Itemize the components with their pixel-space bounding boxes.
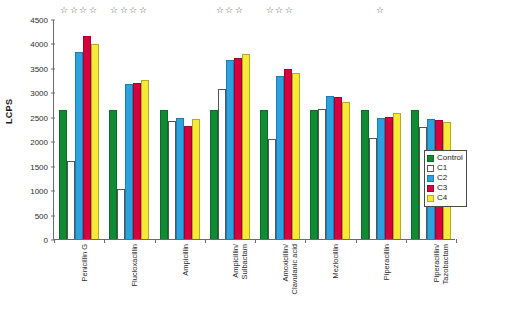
legend-item: C3 <box>427 183 463 193</box>
bar-c1 <box>168 121 176 239</box>
legend-item: C4 <box>427 193 463 203</box>
legend-swatch <box>427 195 434 202</box>
x-tick-label: Amoxicillin/ Clavulanic acid <box>282 244 299 314</box>
bar-c1 <box>218 89 226 239</box>
bar-control <box>361 110 369 239</box>
bar-control <box>160 110 168 239</box>
bar-c4 <box>292 73 300 239</box>
x-tick-label: Penicillin G <box>81 244 90 314</box>
bar-groups: ☆☆☆☆☆☆☆☆☆☆☆☆☆☆☆ <box>54 20 455 239</box>
bar-group <box>356 20 406 239</box>
bar-c3 <box>234 58 242 239</box>
bar-c3 <box>133 83 141 239</box>
legend-swatch <box>427 165 434 172</box>
legend-item: C2 <box>427 173 463 183</box>
x-tick-label: Flucloxacillin <box>131 244 140 314</box>
bar-c3 <box>83 36 91 239</box>
bar-control <box>109 110 117 239</box>
significance-stars: ☆☆☆☆ <box>54 6 104 15</box>
bar-control <box>260 110 268 239</box>
x-tick-label: Piperacillin/ Tazobactam <box>433 244 450 314</box>
legend-item: Control <box>427 153 463 163</box>
x-tick-mark <box>104 239 105 243</box>
legend-label: C4 <box>437 194 447 202</box>
bar-c2 <box>276 76 284 239</box>
bar-control <box>310 110 318 239</box>
bar-c4 <box>342 102 350 239</box>
x-tick-label: Mezlocillin <box>332 244 341 314</box>
significance-stars: ☆ <box>356 6 406 15</box>
legend-label: Control <box>437 154 463 162</box>
bar-c2 <box>377 118 385 239</box>
bar-c4 <box>141 80 149 239</box>
y-axis-label: LCPS <box>4 110 14 124</box>
bar-c2 <box>326 96 334 239</box>
x-tick-mark <box>406 239 407 243</box>
significance-stars: ☆☆☆ <box>205 6 255 15</box>
x-tick-mark <box>456 239 457 243</box>
x-tick-label: Piperacillin <box>383 244 392 314</box>
legend-swatch <box>427 155 434 162</box>
legend-label: C2 <box>437 174 447 182</box>
significance-stars: ☆☆☆ <box>255 6 305 15</box>
bar-c3 <box>284 69 292 239</box>
x-tick-mark <box>255 239 256 243</box>
bar-c4 <box>192 119 200 239</box>
x-tick-mark <box>305 239 306 243</box>
bar-c2 <box>226 60 234 239</box>
bar-c1 <box>369 138 377 239</box>
bar-c4 <box>91 44 99 239</box>
x-tick-label: Ampicillin/ Sulbactam <box>232 244 249 314</box>
bar-group <box>104 20 154 239</box>
legend-label: C3 <box>437 184 447 192</box>
x-tick-mark <box>155 239 156 243</box>
bar-c1 <box>318 109 326 239</box>
legend-swatch <box>427 185 434 192</box>
x-tick-mark <box>205 239 206 243</box>
bar-c3 <box>184 126 192 239</box>
bar-c2 <box>176 118 184 239</box>
chart-legend: ControlC1C2C3C4 <box>424 150 467 207</box>
bar-group <box>305 20 355 239</box>
bar-c2 <box>75 52 83 239</box>
bar-c4 <box>393 113 401 239</box>
bar-control <box>210 110 218 239</box>
bar-c4 <box>242 54 250 239</box>
x-tick-mark <box>356 239 357 243</box>
bar-chart: LCPS 05001000150020002500300035004000450… <box>0 0 513 318</box>
bar-group <box>155 20 205 239</box>
legend-label: C1 <box>437 164 447 172</box>
bar-group <box>205 20 255 239</box>
bar-group <box>255 20 305 239</box>
legend-swatch <box>427 175 434 182</box>
bar-group <box>54 20 104 239</box>
x-axis-labels: Penicillin GFlucloxacillinAmpicillinAmpi… <box>53 244 455 318</box>
x-tick-mark <box>54 239 55 243</box>
bar-c2 <box>125 84 133 239</box>
bar-c1 <box>67 161 75 239</box>
bar-c1 <box>268 139 276 239</box>
significance-stars: ☆☆☆☆ <box>104 6 154 15</box>
bar-control <box>411 110 419 239</box>
bar-c3 <box>385 117 393 239</box>
plot-area: 050010001500200025003000350040004500 ☆☆☆… <box>53 20 455 240</box>
bar-control <box>59 110 67 239</box>
bar-c1 <box>117 189 125 239</box>
x-tick-label: Ampicillin <box>182 244 191 314</box>
legend-item: C1 <box>427 163 463 173</box>
bar-c3 <box>334 97 342 239</box>
